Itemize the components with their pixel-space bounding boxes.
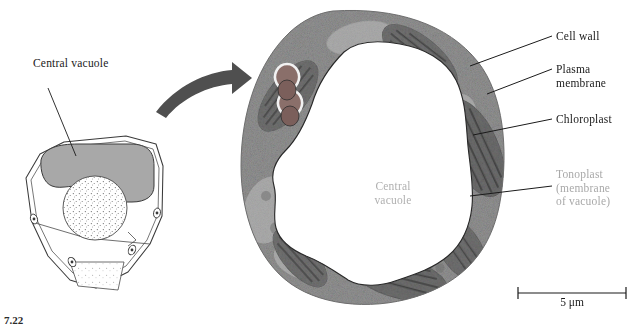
label-cell-wall: Cell wall xyxy=(556,30,600,44)
leader-line-plasma-membrane xyxy=(487,69,552,94)
label-chloroplast: Chloroplast xyxy=(556,113,612,127)
figure-plant-cell-central-vacuole: Central vacuole Cell wall Plasma membran… xyxy=(0,0,634,325)
leader-line-cell-wall xyxy=(470,36,552,66)
label-central-vacuole: Central vacuole xyxy=(33,56,108,70)
label-tonoplast: Tonoplast (membrane of vacuole) xyxy=(556,168,610,209)
figure-number: 7.22 xyxy=(4,314,23,325)
label-plasma-membrane: Plasma membrane xyxy=(556,63,606,90)
label-micrograph-central-vacuole: Central vacuole xyxy=(351,180,435,207)
electron-micrograph xyxy=(0,0,634,325)
scale-bar-label: 5 μm xyxy=(518,296,626,308)
